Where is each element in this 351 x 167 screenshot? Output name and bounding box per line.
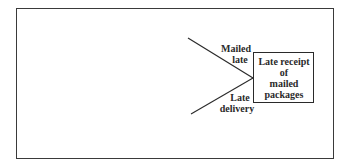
effect-line-4: packages	[265, 89, 304, 100]
fishbone-diagram: Late receipt of mailed packages Mailed l…	[0, 0, 351, 167]
cause-lower-line-1: Late	[230, 92, 250, 103]
cause-label-late-delivery: Late delivery	[220, 92, 254, 114]
effect-line-3: mailed	[270, 78, 299, 89]
cause-upper-line-2: late	[232, 54, 248, 65]
effect-line-1: Late receipt	[258, 56, 310, 67]
cause-lower-line-2: delivery	[220, 103, 254, 114]
cause-upper-line-1: Mailed	[221, 43, 251, 54]
effect-line-2: of	[280, 67, 289, 78]
